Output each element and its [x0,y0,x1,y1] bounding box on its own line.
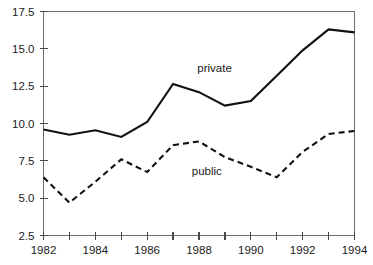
x-tick-label: 1986 [134,244,160,256]
y-axis-tick-labels: 2.55.07.510.012.515.017.5 [12,6,34,242]
series-line-private [44,29,355,137]
x-tick-label: 1994 [342,244,368,256]
y-tick-label: 7.5 [19,155,35,167]
x-tick-label: 1990 [238,244,264,256]
series-label-public: public [192,165,222,177]
y-tick-label: 15.0 [12,43,34,55]
series-label-private: private [197,62,232,74]
x-axis-tick-labels: 1982198419861988199019921994 [31,244,368,256]
y-tick-label: 10.0 [12,118,34,130]
x-tick-label: 1988 [186,244,212,256]
y-tick-label: 17.5 [12,6,34,18]
x-tick-label: 1984 [83,244,109,256]
x-tick-label: 1992 [290,244,316,256]
y-tick-label: 5.0 [19,192,35,204]
line-chart: 2.55.07.510.012.515.017.5 19821984198619… [0,0,373,265]
series-annotations: privatepublic [192,62,232,177]
y-tick-label: 12.5 [12,80,34,92]
x-tick-label: 1982 [31,244,57,256]
chart-canvas: 2.55.07.510.012.515.017.5 19821984198619… [0,0,373,265]
y-tick-label: 2.5 [19,230,35,242]
